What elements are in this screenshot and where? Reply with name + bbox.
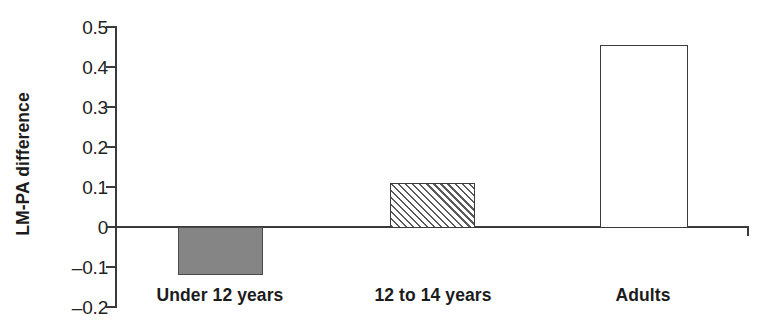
- y-tick-label-0.2: 0.2: [48, 138, 108, 157]
- y-tick-label-neg0.2: –0.2: [48, 298, 108, 317]
- y-axis-tick-labels: 0.5 0.4 0.3 0.2 0.1 0 –0.1 –0.2: [46, 0, 108, 328]
- y-tick-mark-0.4: [106, 66, 116, 68]
- y-axis-title: LM-PA difference: [13, 92, 34, 236]
- bar-chart-figure: LM-PA difference 0.5 0.4 0.3 0.2 0.1 0 –…: [0, 0, 775, 328]
- bar-under-12-years: [178, 227, 263, 275]
- y-tick-mark-0.3: [106, 106, 116, 108]
- y-tick-mark-neg0.1: [106, 266, 116, 268]
- y-tick-label-0: 0: [48, 218, 108, 237]
- y-tick-mark-0.1: [106, 186, 116, 188]
- y-tick-mark-neg0.2: [106, 306, 116, 308]
- bar-adults: [600, 45, 688, 228]
- x-tick-label-adults: Adults: [578, 285, 708, 306]
- y-tick-label-0.5: 0.5: [48, 18, 108, 37]
- y-tick-label-0.3: 0.3: [48, 98, 108, 117]
- y-axis-title-container: LM-PA difference: [0, 0, 46, 328]
- y-tick-label-0.1: 0.1: [48, 178, 108, 197]
- x-tick-label-12-to-14-years: 12 to 14 years: [343, 285, 523, 306]
- y-tick-label-0.4: 0.4: [48, 58, 108, 77]
- x-axis-end-tick: [747, 226, 749, 236]
- bar-12-to-14-years: [390, 183, 475, 228]
- y-tick-mark-0.5: [106, 26, 116, 28]
- x-tick-label-under-12-years: Under 12 years: [130, 285, 310, 306]
- y-tick-label-neg0.1: –0.1: [48, 258, 108, 277]
- y-tick-mark-0.2: [106, 146, 116, 148]
